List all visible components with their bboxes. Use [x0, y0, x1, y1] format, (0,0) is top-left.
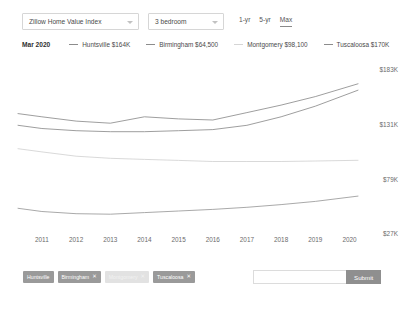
bedroom-select[interactable]: 3 bedroom	[148, 13, 224, 30]
city-filter-chips: Huntsville Birmingham ✕ Montgomery ✕ Tus…	[23, 271, 203, 283]
legend-swatch	[234, 44, 243, 45]
range-1yr[interactable]: 1-yr	[239, 16, 250, 27]
y-axis: $183K $131K $79K $27K	[0, 58, 404, 243]
legend-date: Mar 2020	[22, 41, 50, 48]
x-axis: 2011201220132014201520162017201820192020	[0, 236, 404, 250]
chip-tuscaloosa[interactable]: Tuscaloosa ✕	[153, 271, 195, 283]
x-tick-label: 2017	[240, 236, 254, 243]
chip-label: Montgomery	[109, 274, 138, 280]
city-search-bar: Submit	[253, 270, 381, 284]
zillow-home-value-chart-page: Zillow Home Value Index 3 bedroom 1-yr 5…	[0, 0, 404, 322]
chip-montgomery[interactable]: Montgomery ✕	[105, 271, 149, 283]
bedroom-select-value: 3 bedroom	[155, 18, 187, 25]
close-icon[interactable]: ✕	[186, 274, 191, 279]
range-5yr[interactable]: 5-yr	[259, 16, 270, 27]
legend-swatch	[146, 44, 155, 45]
legend-label: Huntsville $164K	[82, 41, 130, 48]
submit-button[interactable]: Submit	[346, 270, 381, 284]
x-tick-label: 2014	[137, 236, 151, 243]
chart-controls: Zillow Home Value Index 3 bedroom 1-yr 5…	[22, 13, 292, 30]
close-icon[interactable]: ✕	[92, 274, 97, 279]
y-tick-label: $131K	[380, 121, 398, 128]
y-tick-label: $79K	[383, 176, 398, 183]
legend-item-montgomery: Montgomery $98,100	[234, 41, 307, 48]
chip-huntsville[interactable]: Huntsville	[23, 271, 54, 283]
legend-item-huntsville: Huntsville $164K	[69, 41, 130, 48]
x-tick-label: 2016	[206, 236, 220, 243]
x-tick-label: 2013	[103, 236, 117, 243]
metric-select[interactable]: Zillow Home Value Index	[22, 13, 139, 30]
y-tick-label: $183K	[380, 66, 398, 73]
metric-select-value: Zillow Home Value Index	[29, 18, 101, 25]
x-tick-label: 2018	[274, 236, 288, 243]
legend-item-birmingham: Birmingham $64,500	[146, 41, 218, 48]
legend-swatch	[324, 44, 333, 45]
x-tick-label: 2012	[69, 236, 83, 243]
close-icon[interactable]: ✕	[141, 274, 146, 279]
x-tick-label: 2020	[342, 236, 356, 243]
chip-label: Birmingham	[62, 274, 90, 280]
x-tick-label: 2019	[308, 236, 322, 243]
chevron-down-icon	[212, 21, 218, 24]
chevron-down-icon	[127, 21, 133, 24]
legend-swatch	[69, 44, 78, 45]
x-tick-label: 2011	[35, 236, 49, 243]
range-max[interactable]: Max	[280, 16, 292, 27]
search-input[interactable]	[253, 270, 346, 284]
legend-label: Tuscaloosa $170K	[337, 41, 390, 48]
chip-label: Huntsville	[27, 274, 50, 280]
legend-label: Montgomery $98,100	[247, 41, 307, 48]
legend-item-tuscaloosa: Tuscaloosa $170K	[324, 41, 390, 48]
chart-legend: Mar 2020 Huntsville $164K Birmingham $64…	[22, 41, 389, 48]
chip-label: Tuscaloosa	[157, 274, 183, 280]
time-range-group: 1-yr 5-yr Max	[239, 16, 292, 27]
legend-label: Birmingham $64,500	[159, 41, 218, 48]
x-tick-label: 2015	[171, 236, 185, 243]
chip-birmingham[interactable]: Birmingham ✕	[58, 271, 101, 283]
